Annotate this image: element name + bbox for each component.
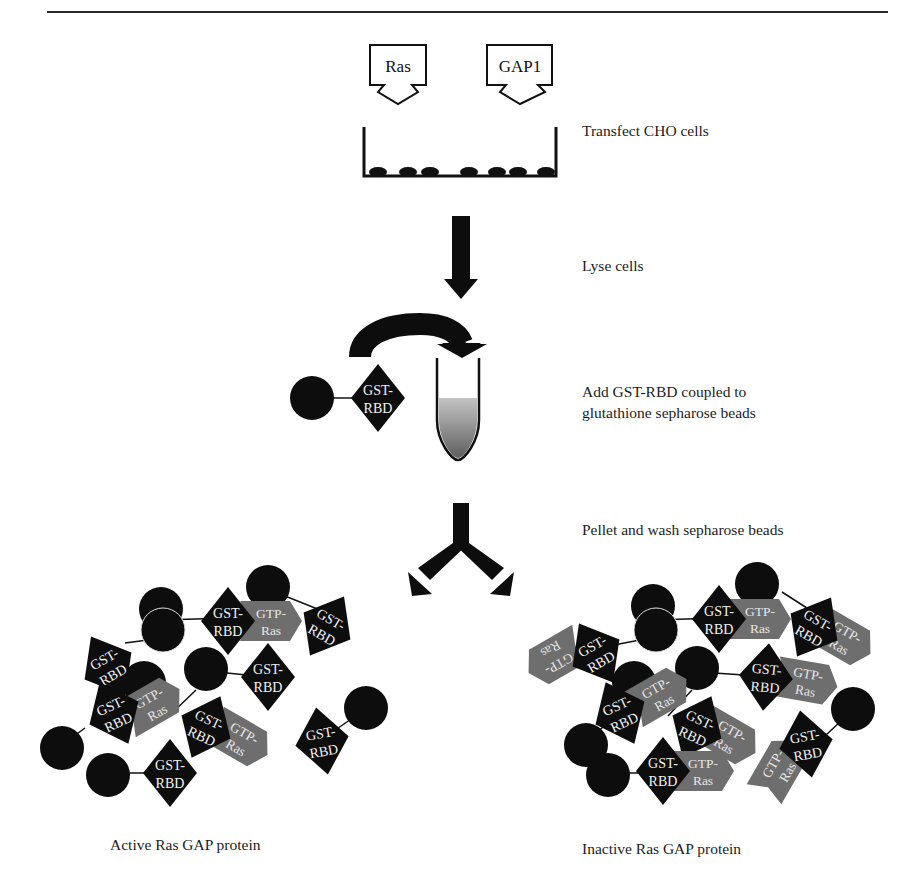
plasmid-ras: Ras [370, 45, 426, 104]
bait-bead-complex [290, 364, 405, 432]
step-pellet: Pellet and wash sepharose beads [582, 519, 783, 540]
step-add-line2: glutathione sepharose beads [582, 402, 756, 423]
plasmid-gap1-label: GAP1 [499, 57, 542, 76]
workflow-diagram: GST- RBD GTP- Ras Ras GAP1 [0, 0, 914, 878]
step-lyse: Lyse cells [582, 255, 644, 276]
split-arrow-icon [408, 503, 514, 596]
caption-inactive: Inactive Ras GAP protein [582, 840, 741, 858]
plasmid-gap1: GAP1 [487, 45, 552, 104]
step-transfect: Transfect CHO cells [582, 120, 709, 141]
inactive-complex-cluster [519, 562, 881, 805]
plasmid-ras-label: Ras [385, 57, 411, 76]
step-add-line1: Add GST-RBD coupled to [582, 381, 746, 402]
caption-active: Active Ras GAP protein [110, 836, 261, 854]
down-arrow-icon [444, 216, 478, 299]
culture-dish [364, 127, 556, 177]
curved-arrow-icon [354, 318, 487, 358]
lysate-tube [437, 358, 479, 460]
active-complex-cluster [40, 565, 388, 807]
